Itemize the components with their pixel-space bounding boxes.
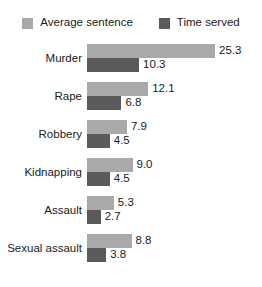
chart-group: Murder25.310.3 — [0, 44, 262, 72]
chart-group: Sexual assault8.83.8 — [0, 234, 262, 262]
bar-value-label: 25.3 — [215, 45, 241, 57]
bar-row: 6.8 — [87, 96, 141, 110]
bar-value-label: 9.0 — [133, 159, 153, 171]
bar-value-label: 7.9 — [127, 121, 147, 133]
bar-row: 9.0 — [87, 158, 153, 172]
bar-time-served[interactable] — [87, 248, 106, 262]
category-label: Sexual assault — [7, 234, 87, 262]
bar-average-sentence[interactable] — [87, 44, 215, 58]
bar-value-label: 3.8 — [106, 249, 126, 261]
bar-value-label: 4.5 — [110, 173, 130, 185]
chart-group: Assault5.32.7 — [0, 196, 262, 224]
grouped-bar-chart: Average sentenceTime served Murder25.310… — [0, 0, 262, 287]
bar-value-label: 5.3 — [114, 197, 134, 209]
legend-label: Time served — [177, 17, 240, 29]
bar-time-served[interactable] — [87, 172, 110, 186]
bar-value-label: 10.3 — [139, 59, 165, 71]
legend-entry[interactable]: Average sentence — [22, 17, 133, 29]
chart-group: Kidnapping9.04.5 — [0, 158, 262, 186]
bar-row: 10.3 — [87, 58, 166, 72]
bar-row: 12.1 — [87, 82, 175, 96]
category-label: Rape — [55, 82, 88, 110]
bar-average-sentence[interactable] — [87, 82, 148, 96]
bar-row: 4.5 — [87, 172, 130, 186]
bar-average-sentence[interactable] — [87, 234, 132, 248]
bar-row: 25.3 — [87, 44, 241, 58]
bar-row: 3.8 — [87, 248, 126, 262]
legend-label: Average sentence — [40, 17, 133, 29]
bar-value-label: 8.8 — [132, 235, 152, 247]
bar-time-served[interactable] — [87, 210, 101, 224]
bar-time-served[interactable] — [87, 58, 139, 72]
bar-time-served[interactable] — [87, 134, 110, 148]
chart-legend: Average sentenceTime served — [0, 14, 262, 32]
bar-average-sentence[interactable] — [87, 196, 114, 210]
category-label: Murder — [46, 44, 87, 72]
bar-row: 4.5 — [87, 134, 130, 148]
chart-plot-area: Murder25.310.3Rape12.16.8Robbery7.94.5Ki… — [0, 44, 262, 284]
bar-average-sentence[interactable] — [87, 120, 127, 134]
bar-average-sentence[interactable] — [87, 158, 133, 172]
bar-row: 5.3 — [87, 196, 134, 210]
bar-value-label: 4.5 — [110, 135, 130, 147]
legend-swatch-time-served — [159, 18, 170, 29]
legend-entry[interactable]: Time served — [159, 17, 240, 29]
legend-swatch-average-sentence — [22, 18, 33, 29]
bar-value-label: 6.8 — [121, 97, 141, 109]
bar-value-label: 2.7 — [101, 211, 121, 223]
chart-group: Robbery7.94.5 — [0, 120, 262, 148]
category-label: Robbery — [39, 120, 87, 148]
bar-time-served[interactable] — [87, 96, 121, 110]
category-label: Kidnapping — [24, 158, 87, 186]
category-label: Assault — [44, 196, 87, 224]
bar-row: 2.7 — [87, 210, 121, 224]
bar-value-label: 12.1 — [148, 83, 174, 95]
bar-row: 7.9 — [87, 120, 147, 134]
chart-group: Rape12.16.8 — [0, 82, 262, 110]
bar-row: 8.8 — [87, 234, 152, 248]
